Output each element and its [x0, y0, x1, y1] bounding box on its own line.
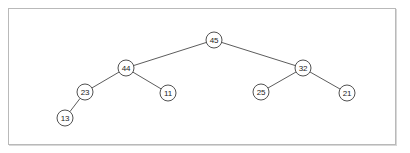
- tree-node[interactable]: 11: [160, 85, 176, 101]
- tree-canvas: 4544322311252113: [0, 0, 410, 153]
- tree-node-label: 21: [343, 89, 352, 98]
- tree-edge: [134, 42, 207, 65]
- tree-node[interactable]: 13: [57, 110, 73, 126]
- tree-edge: [133, 72, 161, 89]
- tree-edge: [70, 98, 80, 111]
- tree-node[interactable]: 45: [206, 32, 222, 48]
- tree-node[interactable]: 25: [253, 84, 269, 100]
- tree-edge: [268, 72, 296, 88]
- tree-node-label: 23: [81, 88, 90, 97]
- tree-edge: [92, 72, 119, 88]
- binary-tree-diagram: 4544322311252113: [0, 0, 410, 153]
- tree-node-label: 25: [257, 88, 266, 97]
- tree-node-label: 45: [210, 36, 219, 45]
- tree-node-label: 44: [122, 64, 131, 73]
- tree-node[interactable]: 44: [118, 60, 134, 76]
- tree-edges-group: [70, 42, 340, 111]
- tree-nodes-group: 4544322311252113: [57, 32, 355, 126]
- tree-node-label: 13: [61, 114, 70, 123]
- tree-node[interactable]: 21: [339, 85, 355, 101]
- tree-node[interactable]: 23: [77, 84, 93, 100]
- tree-node[interactable]: 32: [295, 60, 311, 76]
- tree-node-label: 11: [164, 89, 173, 98]
- tree-edge: [222, 42, 296, 65]
- tree-node-label: 32: [299, 64, 308, 73]
- tree-edge: [310, 72, 340, 89]
